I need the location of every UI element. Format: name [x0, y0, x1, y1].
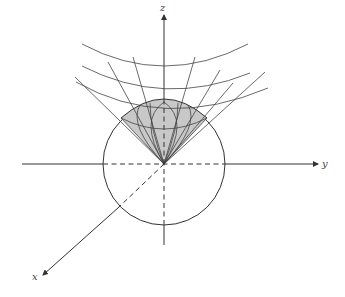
x-axis-inside	[119, 164, 164, 207]
diagram-canvas: y z x	[0, 0, 345, 297]
y-axis-label: y	[321, 158, 328, 169]
x-axis	[43, 207, 119, 275]
z-axis-label: z	[159, 2, 166, 13]
x-axis-label: x	[32, 271, 38, 282]
level-curves	[76, 44, 268, 109]
